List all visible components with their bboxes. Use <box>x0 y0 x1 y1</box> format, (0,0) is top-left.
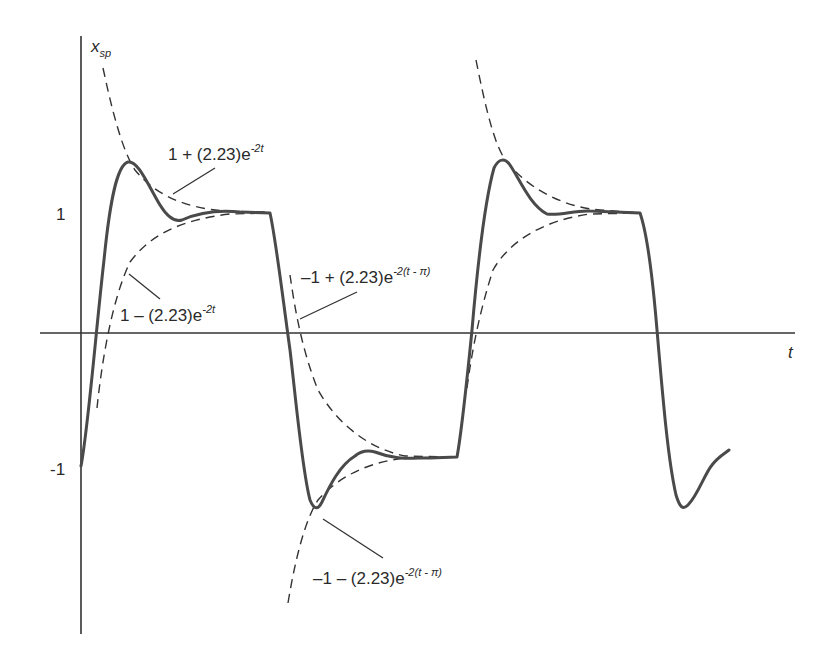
annotation-lower-envelope-2: –1 – (2.23)e-2(t - π) <box>313 566 442 588</box>
envelope-upper-3 <box>476 60 640 213</box>
y-axis-label: xsp <box>90 37 111 59</box>
x-axis-label: t <box>788 343 794 362</box>
annotation-lower-envelope-1: 1 – (2.23)e-2t <box>120 303 216 325</box>
y-tick-1: 1 <box>56 205 65 224</box>
annotation-upper-envelope-1: 1 + (2.23)e-2t <box>168 142 264 164</box>
envelope-upper-2 <box>290 275 455 457</box>
envelope-lower-3 <box>467 213 640 388</box>
leader-ann4 <box>323 519 383 558</box>
y-tick-neg1: -1 <box>50 460 65 479</box>
leader-ann3 <box>300 292 357 319</box>
annotation-upper-envelope-2: –1 + (2.23)e-2(t - π) <box>301 265 431 287</box>
leader-ann2 <box>129 274 160 299</box>
y-axis-label-subscript: sp <box>100 47 112 59</box>
envelope-upper-1 <box>103 68 268 212</box>
chart-canvas: xsp t 1 -1 1 + (2.23)e-2t 1 – (2.23)e-2t… <box>0 0 832 662</box>
leader-ann1 <box>173 168 215 194</box>
